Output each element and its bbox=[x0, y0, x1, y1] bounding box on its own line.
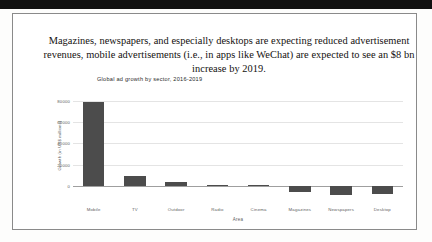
figure-caption: Magazines, newspapers, and especially de… bbox=[35, 34, 423, 77]
x-axis-tick-label: TV bbox=[132, 207, 138, 212]
zero-axis-line bbox=[73, 186, 403, 187]
bar bbox=[207, 185, 228, 186]
bar bbox=[248, 185, 269, 186]
x-axis-tick-label: Mobile bbox=[87, 207, 101, 212]
x-axis-tick-label: Cinema bbox=[251, 207, 267, 212]
y-axis-tick-label: 60000 bbox=[57, 119, 70, 124]
y-axis-tick-label: 80000 bbox=[57, 98, 70, 103]
x-axis-tick-label: Magazines bbox=[289, 207, 312, 212]
bar-chart: Global ad growth by sector, 2016-2019 Gr… bbox=[25, 76, 425, 241]
x-axis-tick-label: Radio bbox=[211, 207, 223, 212]
page-top-rule bbox=[0, 0, 432, 9]
y-axis-tick-label: 20000 bbox=[57, 162, 70, 167]
gridline bbox=[73, 165, 403, 166]
y-axis-tick-label: 0 bbox=[67, 184, 70, 189]
x-axis-tick-label: Outdoor bbox=[168, 207, 185, 212]
bar bbox=[372, 186, 393, 194]
scanned-page: Magazines, newspapers, and especially de… bbox=[0, 0, 432, 242]
bar bbox=[330, 186, 351, 195]
gridline bbox=[73, 122, 403, 123]
document-frame: Magazines, newspapers, and especially de… bbox=[12, 13, 417, 230]
bar bbox=[83, 102, 104, 187]
chart-title: Global ad growth by sector, 2016-2019 bbox=[97, 76, 202, 82]
plot-area: 800006000040000200000MobileTVOutdoorRadi… bbox=[73, 92, 403, 199]
bar bbox=[124, 176, 145, 186]
gridline bbox=[73, 143, 403, 144]
bar bbox=[165, 182, 186, 186]
x-axis-tick-label: Desktop bbox=[374, 207, 391, 212]
gridline bbox=[73, 101, 403, 102]
x-axis-title: Area bbox=[73, 217, 403, 222]
bar bbox=[289, 186, 310, 192]
x-axis-tick-label: Newspapers bbox=[328, 207, 354, 212]
y-axis-tick-label: 40000 bbox=[57, 141, 70, 146]
